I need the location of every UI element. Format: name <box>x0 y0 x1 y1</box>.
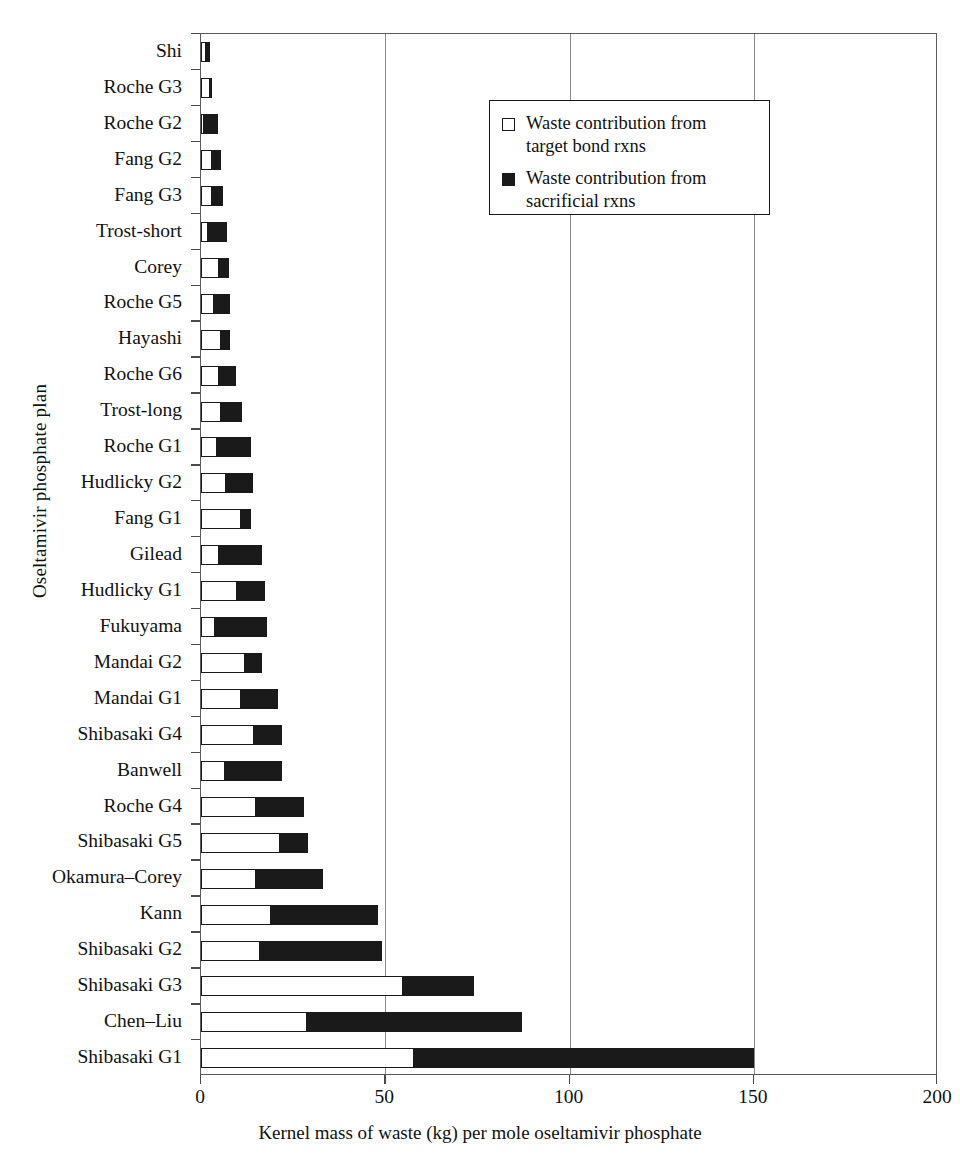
stacked-bar[interactable] <box>201 941 382 961</box>
y-tick-mark <box>191 967 200 968</box>
stacked-bar[interactable] <box>201 581 265 601</box>
bar-segment-target-bond <box>201 941 260 961</box>
stacked-bar[interactable] <box>201 725 282 745</box>
y-tick-label: Fukuyama <box>100 615 182 637</box>
bar-row <box>201 429 936 466</box>
stacked-bar[interactable] <box>201 222 227 242</box>
bar-row <box>201 753 936 790</box>
bar-row <box>201 357 936 394</box>
y-tick-mark <box>191 788 200 789</box>
stacked-bar[interactable] <box>201 330 230 350</box>
bar-row <box>201 717 936 754</box>
bar-row <box>201 824 936 861</box>
x-tick-label: 50 <box>375 1086 395 1108</box>
stacked-bar[interactable] <box>201 869 323 889</box>
bar-row <box>201 286 936 323</box>
stacked-bar[interactable] <box>201 617 267 637</box>
bar-segment-target-bond <box>201 437 218 457</box>
stacked-bar[interactable] <box>201 1012 522 1032</box>
stacked-bar[interactable] <box>201 761 282 781</box>
y-tick-label: Roche G1 <box>103 435 182 457</box>
bar-segment-target-bond <box>201 402 221 422</box>
x-tick-label: 100 <box>554 1086 583 1108</box>
stacked-bar[interactable] <box>201 473 253 493</box>
bar-segment-sacrificial <box>216 437 251 457</box>
bar-row <box>201 321 936 358</box>
bar-segment-target-bond <box>201 1048 415 1068</box>
y-tick-label: Roche G6 <box>103 363 182 385</box>
bar-segment-sacrificial <box>203 114 217 134</box>
y-tick-label: Chen–Liu <box>104 1010 182 1032</box>
bar-segment-sacrificial <box>306 1012 521 1032</box>
bar-row <box>201 214 936 251</box>
y-tick-label: Fang G2 <box>114 148 182 170</box>
bar-row <box>201 1004 936 1041</box>
stacked-bar[interactable] <box>201 545 262 565</box>
bar-row <box>201 609 936 646</box>
bar-segment-sacrificial <box>413 1048 753 1068</box>
stacked-bar[interactable] <box>201 186 223 206</box>
y-tick-mark <box>191 177 200 178</box>
x-tick-label: 0 <box>195 1086 205 1108</box>
bar-segment-sacrificial <box>224 761 283 781</box>
x-axis-ticks <box>200 1075 937 1085</box>
y-tick-label: Shibasaki G5 <box>77 830 182 852</box>
stacked-bar[interactable] <box>201 509 251 529</box>
open-square-icon <box>502 118 515 131</box>
stacked-bar[interactable] <box>201 437 251 457</box>
bar-segment-sacrificial <box>220 402 242 422</box>
stacked-bar[interactable] <box>201 905 378 925</box>
stacked-bar[interactable] <box>201 294 230 314</box>
y-tick-mark <box>191 141 200 142</box>
y-tick-mark <box>191 33 200 34</box>
stacked-bar[interactable] <box>201 402 242 422</box>
stacked-bar[interactable] <box>201 797 304 817</box>
x-tick-mark <box>936 1075 937 1084</box>
stacked-bar[interactable] <box>201 1048 754 1068</box>
bar-segment-target-bond <box>201 905 271 925</box>
y-tick-mark <box>191 536 200 537</box>
bar-segment-target-bond <box>201 976 404 996</box>
stacked-bar[interactable] <box>201 114 218 134</box>
legend-entry: Waste contribution from sacrificial rxns <box>502 167 759 212</box>
bar-segment-sacrificial <box>259 941 382 961</box>
y-tick-label: Shibasaki G1 <box>77 1046 182 1068</box>
stacked-bar[interactable] <box>201 976 474 996</box>
y-tick-mark <box>191 1003 200 1004</box>
stacked-bar[interactable] <box>201 258 229 278</box>
y-tick-label: Trost-short <box>96 220 182 242</box>
bar-segment-target-bond <box>201 797 256 817</box>
bar-segment-sacrificial <box>209 78 212 98</box>
y-axis-ticks <box>190 33 200 1075</box>
y-tick-mark <box>191 249 200 250</box>
bar-segment-sacrificial <box>255 869 323 889</box>
y-tick-mark <box>191 1039 200 1040</box>
y-tick-mark <box>191 428 200 429</box>
y-tick-mark <box>191 823 200 824</box>
x-axis-title: Kernel mass of waste (kg) per mole oselt… <box>0 1122 960 1144</box>
bar-segment-sacrificial <box>255 797 304 817</box>
y-tick-mark <box>191 464 200 465</box>
stacked-bar[interactable] <box>201 42 210 62</box>
y-tick-mark <box>191 69 200 70</box>
stacked-bar[interactable] <box>201 366 236 386</box>
bar-segment-target-bond <box>201 725 254 745</box>
y-tick-mark <box>191 500 200 501</box>
bar-segment-target-bond <box>201 545 219 565</box>
stacked-bar[interactable] <box>201 653 262 673</box>
bar-row <box>201 681 936 718</box>
stacked-bar[interactable] <box>201 833 308 853</box>
y-tick-mark <box>191 213 200 214</box>
y-tick-label: Gilead <box>130 543 182 565</box>
y-tick-mark <box>191 752 200 753</box>
stacked-bar[interactable] <box>201 689 278 709</box>
legend-entry: Waste contribution from target bond rxns <box>502 112 759 157</box>
bar-segment-target-bond <box>201 330 221 350</box>
y-tick-label: Hudlicky G2 <box>81 471 182 493</box>
bar-segment-target-bond <box>201 653 245 673</box>
bar-segment-sacrificial <box>253 725 282 745</box>
y-tick-label: Shibasaki G3 <box>77 974 182 996</box>
y-tick-label: Shibasaki G4 <box>77 723 182 745</box>
stacked-bar[interactable] <box>201 78 212 98</box>
stacked-bar[interactable] <box>201 150 221 170</box>
